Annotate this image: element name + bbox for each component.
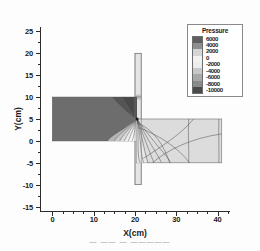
y-tick-major bbox=[36, 53, 40, 54]
y-tick-label: -15 bbox=[23, 202, 33, 211]
legend-title: Pressure bbox=[188, 27, 242, 34]
y-tick-major bbox=[36, 119, 40, 120]
legend-color-ramp bbox=[192, 36, 203, 94]
x-tick-minor bbox=[207, 212, 208, 214]
x-tick-minor bbox=[114, 212, 115, 214]
y-tick-label: 10 bbox=[25, 93, 33, 102]
y-tick-label: -5 bbox=[27, 158, 33, 167]
x-tick-label: 10 bbox=[90, 215, 98, 224]
y-tick-label: 20 bbox=[25, 49, 33, 58]
x-tick-minor bbox=[228, 212, 229, 214]
y-tick-major bbox=[36, 207, 40, 208]
joint-singularity-point bbox=[135, 117, 138, 120]
x-tick-label: 30 bbox=[172, 215, 180, 224]
x-tick-minor bbox=[83, 212, 84, 214]
y-tick-minor bbox=[38, 64, 40, 65]
legend-level-label: 6000 bbox=[206, 36, 218, 42]
legend-level-label: 0 bbox=[206, 55, 209, 61]
legend-level-label: -8000 bbox=[206, 81, 220, 87]
y-tick-major bbox=[36, 185, 40, 186]
x-tick-minor bbox=[125, 212, 126, 214]
x-tick-label: 20 bbox=[131, 215, 139, 224]
y-tick-label: 15 bbox=[25, 71, 33, 80]
legend-level-label: 2000 bbox=[206, 48, 218, 54]
legend-level-label: -10000 bbox=[206, 87, 223, 93]
y-tick-minor bbox=[38, 174, 40, 175]
y-tick-minor bbox=[38, 42, 40, 43]
y-tick-major bbox=[36, 75, 40, 76]
y-tick-minor bbox=[38, 86, 40, 87]
x-tick-minor bbox=[145, 212, 146, 214]
legend-swatch bbox=[193, 87, 202, 93]
x-tick-minor bbox=[166, 212, 167, 214]
x-tick-minor bbox=[63, 212, 64, 214]
legend-level-label: -6000 bbox=[206, 74, 220, 80]
y-tick-label: 25 bbox=[25, 27, 33, 36]
y-tick-major bbox=[36, 163, 40, 164]
y-tick-major bbox=[36, 31, 40, 32]
legend: Pressure 6000400020000-2000-4000-6000-80… bbox=[187, 24, 243, 97]
x-tick-minor bbox=[197, 212, 198, 214]
y-tick-major bbox=[36, 141, 40, 142]
x-tick-minor bbox=[104, 212, 105, 214]
figure-contour-plot: 0102030402520151050-5-10-15 X(cm) Y(cm) … bbox=[0, 0, 260, 251]
y-tick-label: 5 bbox=[29, 115, 33, 124]
y-axis-title: Y(cm) bbox=[13, 107, 23, 131]
y-tick-label: -10 bbox=[23, 180, 33, 189]
figure-caption: — —— — ————— bbox=[0, 238, 260, 245]
legend-level-label: -4000 bbox=[206, 68, 220, 74]
y-tick-minor bbox=[38, 152, 40, 153]
x-tick-minor bbox=[73, 212, 74, 214]
y-tick-minor bbox=[38, 130, 40, 131]
x-tick-minor bbox=[187, 212, 188, 214]
legend-labels: 6000400020000-2000-4000-6000-8000-10000 bbox=[206, 35, 242, 95]
y-tick-minor bbox=[38, 108, 40, 109]
legend-level-label: -2000 bbox=[206, 61, 220, 67]
y-tick-major bbox=[36, 97, 40, 98]
legend-level-label: 4000 bbox=[206, 42, 218, 48]
x-tick-label: 0 bbox=[50, 215, 54, 224]
region-right-plate bbox=[137, 119, 222, 163]
y-tick-minor bbox=[38, 196, 40, 197]
y-tick-label: 0 bbox=[29, 136, 33, 145]
x-tick-minor bbox=[156, 212, 157, 214]
x-axis-title: X(cm) bbox=[123, 228, 147, 238]
x-tick-label: 40 bbox=[214, 215, 222, 224]
y-axis-line bbox=[40, 27, 41, 211]
